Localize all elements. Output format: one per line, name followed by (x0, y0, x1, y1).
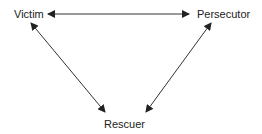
triangle-diagram (0, 0, 262, 134)
edge-victim-rescuer (31, 23, 105, 112)
node-victim: Victim (14, 8, 44, 20)
node-rescuer: Rescuer (104, 118, 145, 130)
node-persecutor: Persecutor (197, 8, 250, 20)
edge-persecutor-rescuer (146, 23, 211, 112)
